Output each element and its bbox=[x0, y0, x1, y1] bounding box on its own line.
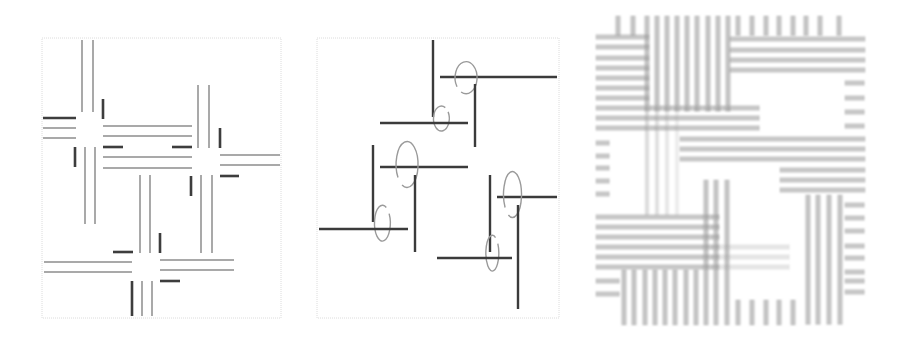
panel-a-frame bbox=[42, 38, 281, 318]
panel-a bbox=[42, 38, 281, 318]
spiral-ellipse bbox=[374, 205, 390, 241]
panel-b bbox=[317, 38, 559, 318]
panel-c bbox=[596, 16, 865, 325]
spiral-ellipse bbox=[433, 106, 449, 131]
spiral-ellipse bbox=[486, 235, 499, 271]
figure-canvas bbox=[0, 0, 902, 345]
panel-b-frame bbox=[317, 38, 559, 318]
